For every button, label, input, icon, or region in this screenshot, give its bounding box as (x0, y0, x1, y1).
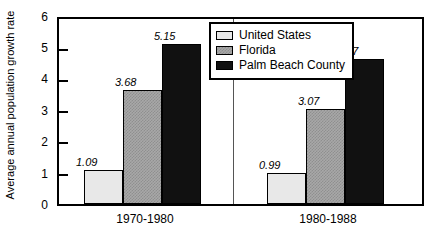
legend-swatch-florida-icon (216, 46, 233, 55)
y-tick-label-0: 0 (8, 199, 48, 211)
y-tick-label-3: 3 (8, 105, 48, 117)
x-axis-label-1970-1980: 1970-1980 (100, 212, 190, 226)
legend-item-united-states[interactable]: United States (216, 28, 345, 43)
y-tick-mark-2 (59, 142, 68, 144)
y-tick-label-1: 1 (8, 168, 48, 180)
y-tick-mark-5 (59, 49, 68, 51)
y-tick-mark-3 (59, 111, 68, 113)
y-tick-mark-1 (59, 174, 68, 176)
bar-1980-1988-florida[interactable] (306, 109, 345, 204)
legend-swatch-palm-beach-county-icon (216, 61, 233, 70)
x-axis-label-1980-1988: 1980-1988 (283, 212, 373, 226)
bar-value-1980-1988-florida: 3.07 (298, 95, 319, 107)
legend-label-florida: Florida (239, 44, 276, 57)
legend-label-united-states: United States (239, 29, 311, 42)
bar-1980-1988-united-states[interactable] (267, 173, 306, 204)
y-tick-label-4: 4 (8, 73, 48, 85)
bar-value-1970-1980-palm-beach-county: 5.15 (154, 30, 175, 42)
legend-item-palm-beach-county[interactable]: Palm Beach County (216, 58, 345, 73)
bar-1970-1980-florida[interactable] (123, 90, 162, 204)
legend-label-palm-beach-county: Palm Beach County (239, 59, 345, 72)
bar-value-1970-1980-florida: 3.68 (115, 76, 136, 88)
bar-1970-1980-united-states[interactable] (84, 170, 123, 204)
bar-chart-figure: Average annual population growth rate 6 … (0, 0, 435, 236)
legend-item-florida[interactable]: Florida (216, 43, 345, 58)
y-tick-label-5: 5 (8, 42, 48, 54)
y-tick-label-2: 2 (8, 136, 48, 148)
bar-value-1970-1980-united-states: 1.09 (76, 156, 97, 168)
bar-1980-1988-palm-beach-county[interactable] (345, 59, 384, 204)
y-tick-label-6: 6 (8, 11, 48, 23)
bar-1970-1980-palm-beach-county[interactable] (162, 44, 201, 204)
legend: United States Florida Palm Beach County (209, 22, 354, 80)
bar-value-1980-1988-united-states: 0.99 (259, 159, 280, 171)
y-tick-mark-4 (59, 80, 68, 82)
legend-swatch-united-states-icon (216, 31, 233, 40)
